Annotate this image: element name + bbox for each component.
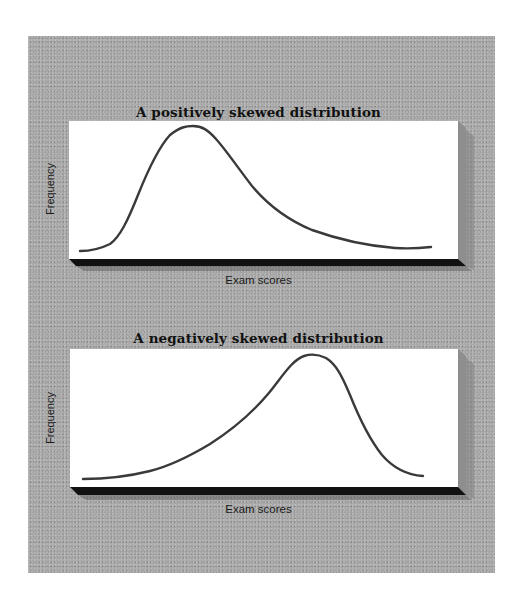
plot-area-negative <box>70 349 458 487</box>
x-axis-label-negative: Exam scores <box>0 503 517 515</box>
chart-canvas-negative <box>0 0 517 530</box>
box-base-negative <box>70 487 466 495</box>
box-side-negative <box>458 349 466 495</box>
